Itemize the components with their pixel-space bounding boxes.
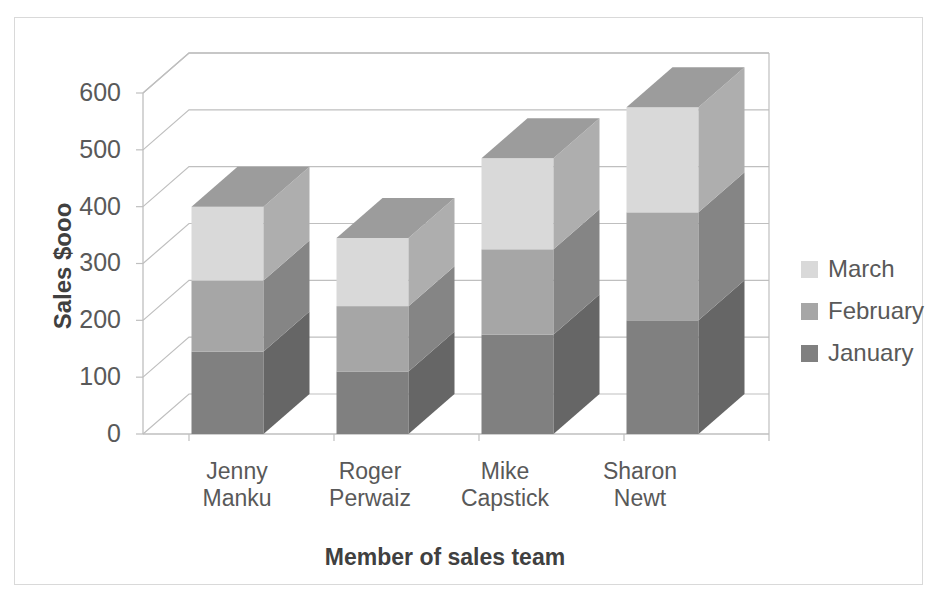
chart-legend: March February January [801, 248, 942, 374]
y-tick-label: 600 [59, 80, 121, 105]
y-axis-title: Sales $ooo [49, 166, 77, 366]
legend-item-march[interactable]: March [801, 248, 942, 290]
bar-column-sharon-newt[interactable] [627, 67, 745, 434]
legend-label-february: February [828, 297, 924, 325]
x-tick-label-sharon-newt: Sharon Newt [560, 458, 720, 512]
bar-segment-march [482, 158, 554, 249]
legend-swatch-january [801, 345, 818, 362]
bar-segment-march [192, 207, 264, 281]
bar-segment-february [192, 281, 264, 352]
legend-label-january: January [828, 339, 913, 367]
bar-segment-march [337, 238, 409, 306]
bar-segment-february [337, 306, 409, 371]
x-axis-title: Member of sales team [135, 544, 755, 571]
legend-swatch-february [801, 303, 818, 320]
y-tick-label: 100 [59, 364, 121, 389]
x-tick-line2: Newt [560, 485, 720, 512]
bar-segment-march [627, 107, 699, 212]
bar-column-roger-perwaiz[interactable] [337, 198, 455, 434]
bar-segment-february [482, 249, 554, 334]
legend-swatch-march [801, 261, 818, 278]
bar-segment-january [192, 352, 264, 434]
legend-item-january[interactable]: January [801, 332, 942, 374]
chart-frame: 600 500 400 300 200 100 0 Sales $ooo Jen… [14, 17, 923, 585]
bar-column-mike-capstick[interactable] [482, 118, 600, 434]
bar-segment-january [627, 320, 699, 434]
legend-item-february[interactable]: February [801, 290, 942, 332]
x-tick-line1: Sharon [560, 458, 720, 485]
y-tick-label: 500 [59, 137, 121, 162]
y-tick-label: 0 [59, 421, 121, 446]
legend-label-march: March [828, 255, 895, 283]
bar-segment-january [482, 335, 554, 434]
bar-segment-february [627, 212, 699, 320]
bar-column-jenny-manku[interactable] [192, 167, 310, 434]
bar-segment-january [337, 371, 409, 434]
